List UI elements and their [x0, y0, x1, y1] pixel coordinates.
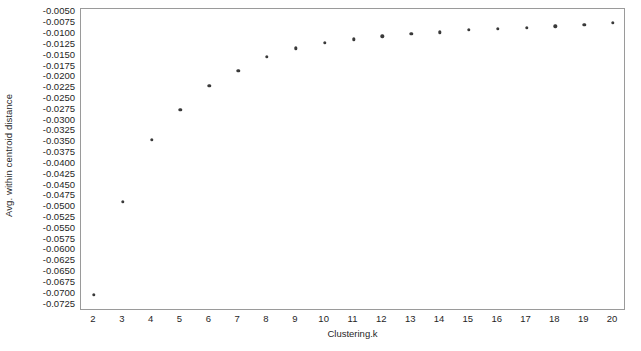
plot-area [80, 8, 625, 310]
y-axis-tick-label: -0.0600 [43, 244, 75, 254]
data-point [381, 35, 384, 38]
y-axis-tick-label: -0.0725 [43, 299, 75, 309]
y-axis-tick-label: -0.0625 [43, 255, 75, 265]
y-axis-tick-label: -0.0050 [43, 6, 75, 16]
x-axis-tick-label: 5 [177, 312, 182, 325]
data-point [438, 31, 441, 34]
y-axis-tick-label: -0.0450 [43, 180, 75, 190]
x-axis-title: Clustering.k [80, 328, 625, 339]
data-point [525, 26, 528, 29]
data-point [352, 38, 355, 41]
x-axis-tick-label: 10 [318, 312, 329, 325]
data-point [294, 47, 297, 50]
y-axis-tick-label: -0.0250 [43, 93, 75, 103]
y-axis-tick-label: -0.0550 [43, 223, 75, 233]
y-axis-title: Avg. within centroid distance [0, 0, 18, 311]
data-point [323, 41, 326, 44]
x-axis-tick-label: 9 [292, 312, 297, 325]
y-axis-tick-label: -0.0650 [43, 266, 75, 276]
y-axis-tick-label: -0.0500 [43, 201, 75, 211]
x-axis-tick-label: 12 [376, 312, 387, 325]
y-axis-tick-label: -0.0225 [43, 82, 75, 92]
x-axis-tick-label: 8 [263, 312, 268, 325]
y-axis-tick-label: -0.0425 [43, 169, 75, 179]
x-axis-tick-label: 13 [405, 312, 416, 325]
x-axis-tick-label: 18 [549, 312, 560, 325]
y-axis-tick-label: -0.0300 [43, 115, 75, 125]
data-point [236, 69, 239, 72]
y-axis-tick-label: -0.0150 [43, 50, 75, 60]
y-axis-tick-label: -0.0325 [43, 125, 75, 135]
data-point [496, 27, 499, 30]
y-axis-tick-label: -0.0575 [43, 234, 75, 244]
data-point [467, 28, 470, 31]
x-axis-tick-label: 4 [148, 312, 153, 325]
x-axis-tick-label: 7 [234, 312, 239, 325]
data-point [265, 55, 268, 58]
data-point [582, 23, 585, 26]
x-axis-tick-labels: 234567891011121314151617181920 [80, 312, 625, 328]
data-point [208, 84, 211, 87]
y-axis-tick-label: -0.0200 [43, 71, 75, 81]
y-axis-tick-label: -0.0125 [43, 39, 75, 49]
x-axis-tick-label: 11 [348, 312, 358, 325]
x-axis-tick-label: 3 [119, 312, 124, 325]
y-axis-tick-label: -0.0525 [43, 212, 75, 222]
data-point [121, 200, 124, 203]
data-point [409, 32, 412, 35]
x-axis-tick-label: 15 [463, 312, 474, 325]
x-axis-tick-label: 16 [491, 312, 502, 325]
y-axis-title-text: Avg. within centroid distance [4, 94, 15, 217]
data-point [150, 138, 153, 141]
y-axis-tick-label: -0.0350 [43, 136, 75, 146]
y-axis-tick-label: -0.0375 [43, 147, 75, 157]
y-axis-tick-label: -0.0275 [43, 104, 75, 114]
x-axis-tick-label: 20 [607, 312, 618, 325]
y-axis-tick-label: -0.0675 [43, 277, 75, 287]
x-axis-tick-label: 17 [520, 312, 531, 325]
y-axis-tick-label: -0.0075 [43, 17, 75, 27]
data-point [179, 108, 182, 111]
y-axis-tick-label: -0.0175 [43, 61, 75, 71]
y-axis-tick-label: -0.0700 [43, 288, 75, 298]
data-point [92, 293, 95, 296]
y-axis-tick-label: -0.0100 [43, 28, 75, 38]
y-axis-tick-labels: -0.0050-0.0075-0.0100-0.0125-0.0150-0.01… [18, 0, 78, 311]
x-axis-tick-label: 19 [578, 312, 589, 325]
data-point [611, 21, 614, 24]
x-axis-tick-label: 2 [90, 312, 95, 325]
data-points-layer [81, 9, 624, 309]
x-axis-tick-label: 14 [434, 312, 445, 325]
data-point [554, 25, 557, 28]
scatter-chart-figure: Avg. within centroid distance -0.0050-0.… [0, 0, 641, 351]
y-axis-tick-label: -0.0475 [43, 190, 75, 200]
x-axis-tick-label: 6 [206, 312, 211, 325]
y-axis-tick-label: -0.0400 [43, 158, 75, 168]
